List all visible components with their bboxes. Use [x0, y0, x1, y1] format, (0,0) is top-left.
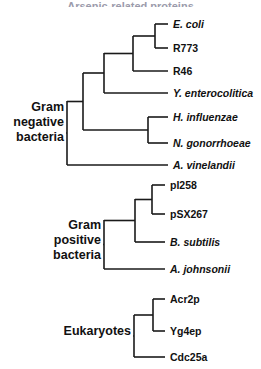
- group-label-line: negative: [13, 115, 64, 129]
- group-label-line: Eukaryotes: [64, 324, 131, 338]
- group-label-line: positive: [54, 233, 101, 247]
- tree-leaf-label: pSX267: [170, 208, 208, 220]
- cladogram-canvas: E. coliR773R46Y. enterocoliticaH. influe…: [0, 0, 261, 369]
- tree-branches-group: [66, 24, 168, 357]
- tree-leaf-label: Yg4ep: [170, 325, 202, 337]
- tree-leaf-label: Y. enterocolitica: [173, 87, 253, 99]
- tree-leaf-label: pI258: [170, 179, 197, 191]
- group-label-line: bacteria: [16, 130, 65, 144]
- tree-group-label-gram-negative: Gramnegativebacteria: [13, 100, 65, 144]
- tree-group-label-gram-positive: Grampositivebacteria: [53, 218, 102, 262]
- group-label-line: bacteria: [53, 248, 102, 262]
- tree-leaf-label: Cdc25a: [170, 351, 208, 363]
- tree-leaf-label: E. coli: [173, 18, 205, 30]
- tree-leaf-label: R46: [173, 65, 192, 77]
- tree-leaf-label: H. influenzae: [173, 111, 238, 123]
- group-label-line: Gram: [68, 218, 101, 232]
- group-label-line: Gram: [31, 100, 64, 114]
- tree-leaf-label: A. vinelandii: [172, 159, 236, 171]
- tree-leaf-label: N. gonorrhoeae: [173, 137, 251, 149]
- tree-leaf-label: Acr2p: [170, 293, 200, 305]
- tree-leaf-label: R773: [173, 42, 198, 54]
- phylogenetic-tree-figure: Arsenic-related proteins E. coliR773R46Y…: [0, 0, 261, 369]
- tree-group-label-eukaryotes: Eukaryotes: [64, 324, 131, 338]
- tree-leaf-label: B. subtilis: [170, 236, 220, 248]
- tree-leaf-label: A. johnsonii: [169, 263, 231, 275]
